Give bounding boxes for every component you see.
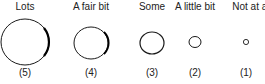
circle-not-at-all (243, 39, 248, 44)
label-some: Some (139, 1, 165, 12)
circle-scale (0, 0, 265, 84)
value-2: (2) (189, 67, 201, 78)
value-4: (4) (85, 67, 97, 78)
label-lots: Lots (16, 1, 35, 12)
value-1: (1) (240, 67, 252, 78)
label-not-at-all: Not at all (232, 1, 265, 12)
value-3: (3) (146, 67, 158, 78)
value-5: (5) (19, 67, 31, 78)
label-fair-bit: A fair bit (73, 1, 109, 12)
circle-lots (1, 19, 49, 65)
circle-little-bit (189, 37, 201, 48)
circle-fair-bit (74, 27, 108, 59)
circle-some (140, 32, 164, 54)
label-little-bit: A little bit (175, 1, 215, 12)
